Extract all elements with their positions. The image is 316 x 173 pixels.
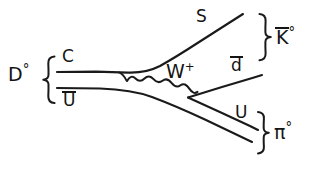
anti-up-in-label: U <box>63 92 75 109</box>
d-meson-brace <box>43 57 54 104</box>
feynman-diagram-canvas: D° C U S W+ d U K° π° <box>0 0 316 173</box>
charm-quark-line <box>57 14 243 73</box>
d-meson-label: D° <box>8 63 29 84</box>
anti-up-in-symbol: U <box>63 92 75 109</box>
feynman-diagram-lines <box>0 0 316 173</box>
up-quark-out-label: U <box>235 104 247 121</box>
anti-down-quark-label: d <box>231 57 242 74</box>
up-quark-line <box>188 98 258 131</box>
pi-meson-superscript: ° <box>285 120 292 135</box>
pi-meson-label: π° <box>274 121 292 142</box>
pi-meson-brace <box>258 112 269 153</box>
strange-quark-label: S <box>196 8 207 25</box>
d-meson-symbol: D <box>8 63 23 85</box>
w-vertex-upper-connector <box>119 72 126 80</box>
kbar-meson-symbol: K <box>276 28 288 47</box>
anti-up-spectator-line <box>57 88 252 142</box>
w-boson-label: W+ <box>166 62 195 81</box>
kbar-meson-brace <box>260 14 271 60</box>
pi-meson-symbol: π <box>274 121 285 143</box>
anti-down-symbol: d <box>231 57 242 74</box>
charm-quark-label: C <box>62 48 74 65</box>
kbar-meson-label: K° <box>276 26 295 47</box>
w-boson-superscript: + <box>185 60 195 74</box>
w-boson-symbol: W <box>166 60 185 82</box>
anti-down-quark-line <box>188 75 262 98</box>
d-meson-superscript: ° <box>23 62 30 77</box>
